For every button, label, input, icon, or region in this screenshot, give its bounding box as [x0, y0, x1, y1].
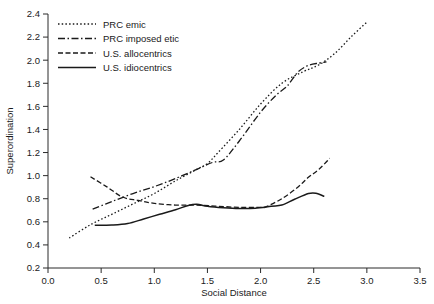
series-line-prc-imposed-etic [93, 62, 327, 209]
series-line-u-s-idiocentrics [95, 193, 325, 225]
y-tick-label: 1.6 [27, 101, 40, 112]
legend: PRC emicPRC imposed eticU.S. allocentric… [58, 19, 179, 74]
chart-figure: 0.20.40.60.81.01.21.41.61.82.02.22.4 0.0… [0, 0, 434, 304]
y-tick-label: 2.4 [27, 8, 40, 19]
y-tick-label: 0.2 [27, 262, 40, 273]
legend-label-1: PRC imposed etic [103, 33, 179, 44]
x-tick-label: 3.5 [413, 275, 426, 286]
x-tick-label: 1.0 [148, 275, 161, 286]
x-tick-label: 0.5 [95, 275, 108, 286]
y-tick-label: 1.0 [27, 170, 40, 181]
y-tick-label: 2.2 [27, 31, 40, 42]
x-axis-ticks: 0.00.51.01.52.02.53.03.5 [41, 268, 426, 286]
x-axis-title: Social Distance [201, 287, 266, 298]
x-tick-label: 2.5 [307, 275, 320, 286]
x-tick-label: 0.0 [41, 275, 54, 286]
x-tick-label: 2.0 [254, 275, 267, 286]
y-tick-label: 0.4 [27, 239, 40, 250]
legend-label-3: U.S. idiocentrics [103, 62, 172, 73]
y-axis-title: Superordination [4, 107, 15, 174]
y-tick-label: 2.0 [27, 55, 40, 66]
chart-canvas: 0.20.40.60.81.01.21.41.61.82.02.22.4 0.0… [0, 0, 434, 304]
y-axis-ticks: 0.20.40.60.81.01.21.41.61.82.02.22.4 [27, 8, 48, 273]
x-tick-label: 1.5 [201, 275, 214, 286]
y-tick-label: 1.8 [27, 78, 40, 89]
y-tick-label: 1.4 [27, 124, 40, 135]
y-tick-label: 0.6 [27, 216, 40, 227]
y-tick-label: 0.8 [27, 193, 40, 204]
y-tick-label: 1.2 [27, 147, 40, 158]
legend-label-0: PRC emic [103, 19, 146, 30]
legend-label-2: U.S. allocentrics [103, 48, 172, 59]
x-tick-label: 3.0 [360, 275, 373, 286]
